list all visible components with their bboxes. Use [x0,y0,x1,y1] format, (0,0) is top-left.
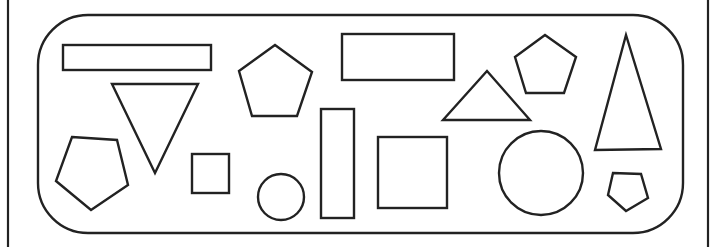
pentagon-top-right-shape [515,35,576,93]
pentagon-small-shape [608,173,648,211]
square-middle-shape [378,137,447,208]
square-small-shape [192,154,229,193]
rect-long-top-left-shape [63,45,211,70]
rounded-frame-box [38,15,683,233]
triangle-wide-shape [443,71,530,120]
shapes-diagram [0,0,718,247]
triangle-tall-shape [595,35,661,150]
circle-small-shape [258,174,304,220]
rect-upper-middle-shape [342,34,454,80]
shapes-group [56,34,661,220]
triangle-inverted-shape [112,84,198,173]
circle-large-shape [499,131,583,215]
pentagon-left-shape [56,137,128,210]
rect-tall-shape [321,109,354,218]
pentagon-top-middle-shape [239,45,312,116]
